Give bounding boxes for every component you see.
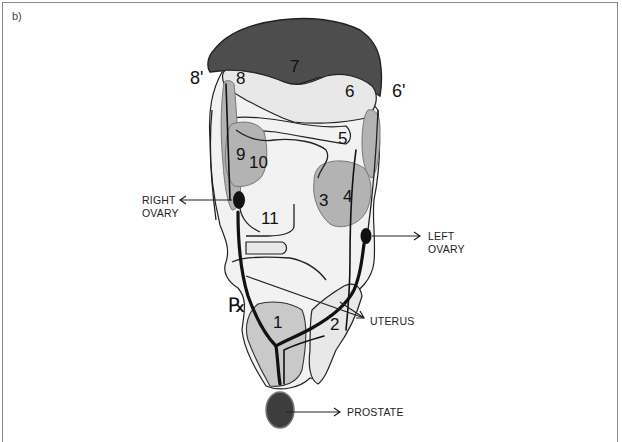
outer-label-6-prime: 6' [392, 81, 405, 101]
region-label-4: 4 [343, 187, 352, 206]
prostate [266, 392, 294, 428]
prostate-label: PROSTATE [347, 406, 404, 418]
region-label-9: 9 [236, 145, 245, 164]
region-label-5: 5 [338, 129, 347, 148]
small-bar-region [246, 242, 287, 254]
region-label-11: 11 [261, 209, 279, 228]
region-label-2: 2 [330, 315, 339, 334]
right-ovary-label-line1: RIGHT [142, 194, 176, 206]
right-ovary [233, 191, 245, 209]
region-label-3: 3 [319, 191, 328, 210]
left-ovary-label-line1: LEFT [428, 230, 455, 242]
region-label-6: 6 [345, 82, 354, 101]
region-label-1: 1 [273, 313, 282, 332]
right-ovary-label-line2: OVARY [142, 207, 179, 219]
panel-label: b) [12, 10, 22, 22]
rx-symbol: ℞ [228, 293, 246, 317]
uterus-label: UTERUS [370, 315, 414, 327]
region-label-8: 8 [236, 69, 245, 88]
outer-label-8-prime: 8' [190, 68, 203, 88]
left-ovary [361, 228, 372, 244]
region-label-10: 10 [249, 153, 268, 172]
left-ovary-label-line2: OVARY [428, 243, 465, 255]
left-ovary-arrow [372, 232, 420, 240]
region-label-7: 7 [290, 57, 299, 76]
